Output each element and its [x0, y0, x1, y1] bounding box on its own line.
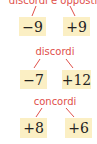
number-box-plus-12: +12	[62, 70, 91, 89]
number-box-minus-7: −7	[20, 70, 47, 89]
number-box-plus-6: +6	[65, 118, 92, 138]
number-box-plus-8: +8	[20, 118, 47, 138]
number-box-minus-9: −9	[19, 17, 46, 36]
group-label-discordi: discordi	[30, 46, 80, 57]
group-label-concordi: concordi	[30, 96, 80, 107]
group-label-discordi-e-opposti: discordi e opposti	[8, 0, 97, 6]
number-box-plus-9: +9	[63, 17, 90, 36]
